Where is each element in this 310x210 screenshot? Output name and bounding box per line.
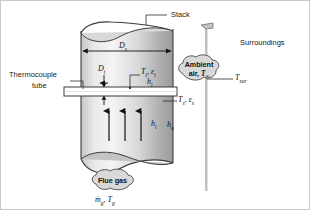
outer-coeff-sub: o — [171, 125, 174, 131]
surroundings-temp-symbol: Tsur — [235, 73, 247, 84]
surroundings-wall — [201, 23, 213, 191]
tube-diameter-sub: t — [104, 69, 106, 75]
gas-temp-sub: g — [112, 200, 115, 206]
stack-cylinder — [81, 22, 173, 173]
ambient-temp-sub: ∞ — [205, 73, 209, 79]
stack-diameter-sub: s — [125, 46, 127, 52]
ambient-air-callout-line2: air, T∞ — [181, 70, 217, 80]
tube-temp-emissivity-symbol: Tt, εt — [141, 67, 156, 78]
inner-coeff-sub-lower: i — [155, 124, 157, 130]
inner-coefficient-symbol-lower: hi — [151, 119, 157, 130]
tube-diameter-symbol: Dt — [98, 64, 105, 75]
surface-emissivity-sub: s — [192, 100, 194, 106]
stack-diameter-symbol: Ds — [119, 41, 127, 52]
thermocouple-tube-label-line2: tube — [32, 82, 47, 91]
inner-coeff-sub: i — [151, 82, 153, 88]
thermocouple-tube-shape — [64, 87, 177, 96]
figure-canvas: Stack Surroundings Thermocouple tube Ds … — [0, 0, 310, 210]
surface-temp-emissivity-symbol: Ts, εs — [178, 95, 194, 106]
surroundings-label: Surroundings — [240, 39, 285, 48]
surroundings-temp-sub: sur — [239, 78, 246, 84]
diagram-svg — [1, 1, 310, 210]
tube-emissivity-sub: t — [154, 72, 156, 78]
flue-gas-callout-label: Flue gas — [94, 177, 131, 186]
stack-label: Stack — [171, 11, 190, 20]
flue-gas-flow-temp-symbols: ṁg, Tg — [95, 195, 115, 206]
inner-coefficient-symbol: hi — [147, 77, 153, 88]
stack-leader-line — [146, 15, 167, 25]
thermocouple-tube-label-line1: Thermocouple — [9, 71, 57, 80]
ambient-air-prefix: air, — [189, 69, 201, 78]
outer-coefficient-symbol: ho — [167, 120, 174, 131]
